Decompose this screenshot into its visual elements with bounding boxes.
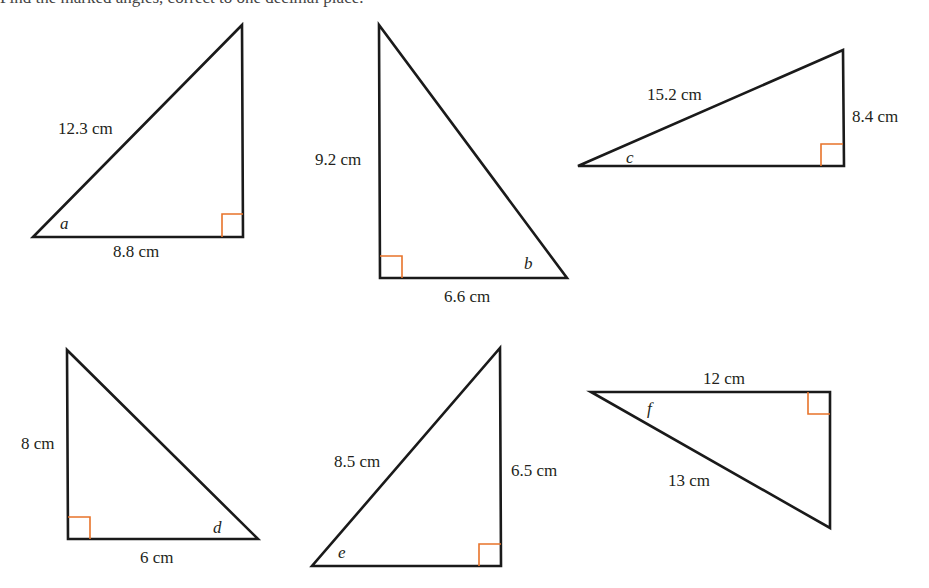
- triangles-diagram: 12.3 cm 8.8 cm a 9.2 cm 6.6 cm b 15.2 cm…: [0, 0, 929, 588]
- side-label-opposite: 9.2 cm: [315, 150, 361, 169]
- right-angle-marker-e: [479, 544, 501, 566]
- side-label-hypotenuse: 12.3 cm: [58, 119, 113, 138]
- side-label-opposite: 6.5 cm: [511, 461, 557, 480]
- triangle-e: 8.5 cm 6.5 cm e: [312, 348, 557, 566]
- triangle-b-shape: [379, 25, 567, 278]
- right-angle-marker-c: [821, 144, 843, 166]
- angle-label-c: c: [626, 148, 634, 167]
- side-label-adjacent: 12 cm: [703, 369, 745, 388]
- side-label-adjacent: 8.8 cm: [113, 242, 159, 261]
- right-angle-marker-f: [808, 392, 830, 414]
- triangle-d-shape: [67, 350, 258, 539]
- triangle-b: 9.2 cm 6.6 cm b: [315, 25, 567, 306]
- side-label-adjacent: 6.6 cm: [444, 287, 490, 306]
- triangle-f: 12 cm 13 cm f: [591, 369, 830, 528]
- triangle-f-shape: [591, 392, 830, 528]
- triangle-c-shape: [578, 50, 844, 166]
- side-label-hypotenuse: 15.2 cm: [647, 85, 702, 104]
- angle-label-f: f: [647, 399, 654, 418]
- side-label-hypotenuse: 8.5 cm: [334, 452, 380, 471]
- side-label-hypotenuse: 13 cm: [668, 471, 710, 490]
- right-angle-marker-b: [380, 256, 402, 278]
- triangle-d: 8 cm 6 cm d: [21, 350, 258, 567]
- triangle-a: 12.3 cm 8.8 cm a: [33, 25, 243, 261]
- angle-label-b: b: [524, 254, 533, 273]
- angle-label-a: a: [60, 214, 69, 233]
- side-label-opposite: 8 cm: [21, 434, 55, 453]
- angle-label-e: e: [338, 543, 346, 562]
- angle-label-d: d: [213, 518, 222, 537]
- triangle-c: 15.2 cm 8.4 cm c: [578, 50, 898, 167]
- right-angle-marker-d: [68, 517, 90, 539]
- side-label-adjacent: 6 cm: [140, 548, 174, 567]
- right-angle-marker-a: [222, 214, 243, 237]
- side-label-opposite: 8.4 cm: [852, 107, 898, 126]
